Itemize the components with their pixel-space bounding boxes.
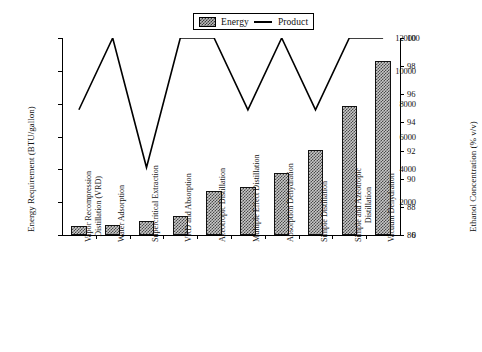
x-axis-label: VRD and Absorption	[184, 173, 194, 242]
x-axis-label-line: Multiple Effect Distillation	[252, 154, 262, 242]
legend-label-product: Product	[278, 17, 308, 27]
y-axis-right-tick-label: 96	[407, 89, 437, 99]
y-axis-right-tick-label: 90	[407, 174, 437, 184]
legend-label-energy: Energy	[221, 17, 249, 27]
x-axis-label-line: Vacuum Dehydration	[387, 173, 397, 242]
y-axis-right-tick-label: 86	[407, 230, 437, 240]
y-axis-right-tick	[400, 151, 404, 152]
x-axis-tick	[130, 235, 131, 239]
chart-canvas: Energy Product Energy Requirement (BTU/g…	[0, 0, 482, 352]
x-axis-tick	[163, 235, 164, 239]
y-axis-right-tick-label: 100	[407, 33, 437, 43]
x-axis-label: Azeotropic Distillation	[218, 168, 228, 242]
x-axis-label-line: Simple and Azeotropic	[354, 168, 364, 242]
x-axis-label: Absorption Dehydration	[286, 163, 296, 242]
y-axis-right-tick	[400, 207, 404, 208]
x-axis-label-line: VRD and Absorption	[184, 173, 194, 242]
x-axis-label-line: Azeotropic Distillation	[218, 168, 228, 242]
x-axis-tick	[197, 235, 198, 239]
x-axis-label-line: Absorption Dehydration	[286, 163, 296, 242]
product-line-path	[79, 38, 383, 167]
y-axis-right-tick	[400, 66, 404, 67]
y-axis-left-title: Energy Requirement (BTU/gallon)	[26, 106, 36, 232]
y-axis-right-tick-label: 88	[407, 202, 437, 212]
x-axis-tick	[265, 235, 266, 239]
y-axis-right-tick-label: 98	[407, 61, 437, 71]
x-axis-label-line: Distillation (VRD)	[93, 171, 103, 242]
x-axis-label-line: Supercritical Extraction	[151, 165, 161, 242]
x-axis-label-line: Distillation	[364, 168, 374, 242]
chart-legend: Energy Product	[193, 13, 314, 30]
x-axis-label-line: Simple Distillation	[320, 181, 330, 242]
y-axis-right-tick-label: 94	[407, 117, 437, 127]
line-glyph-icon	[254, 21, 272, 23]
x-axis-tick	[299, 235, 300, 239]
x-axis-label: Simple and AzeotropicDistillation	[354, 168, 373, 242]
y-axis-right-tick	[400, 235, 404, 236]
x-axis-label-line: Vapor Recompression	[84, 171, 94, 242]
line-series-product	[62, 38, 400, 235]
y-axis-right-tick	[400, 94, 404, 95]
x-axis-label-line: Water Adsorption	[117, 185, 127, 242]
x-axis-tick	[231, 235, 232, 239]
bar-swatch-icon	[199, 17, 216, 27]
x-axis-label: Vapor RecompressionDistillation (VRD)	[84, 171, 103, 242]
x-axis-label: Simple Distillation	[320, 181, 330, 242]
y-axis-right-tick	[400, 38, 404, 39]
y-axis-left-tick	[58, 235, 62, 236]
x-axis-tick	[332, 235, 333, 239]
x-axis-label: Supercritical Extraction	[151, 165, 161, 242]
y-axis-right-title: Ethanol Concentration (% v/v)	[468, 121, 478, 232]
y-axis-right-tick-label: 92	[407, 146, 437, 156]
x-axis-label: Multiple Effect Distillation	[252, 154, 262, 242]
x-axis-label: Vacuum Dehydration	[387, 173, 397, 242]
x-axis-label: Water Adsorption	[117, 185, 127, 242]
y-axis-right-tick	[400, 179, 404, 180]
y-axis-right-tick	[400, 122, 404, 123]
